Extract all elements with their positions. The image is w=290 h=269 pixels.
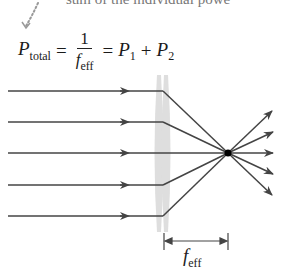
- focal-point: [225, 150, 232, 157]
- diverging-rays: [228, 111, 273, 195]
- dotted-pointer: [26, 3, 38, 26]
- ray-diagram: [0, 0, 290, 269]
- focal-length-label: feff: [183, 245, 201, 269]
- incoming-rays: [8, 91, 228, 216]
